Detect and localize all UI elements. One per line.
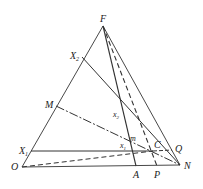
label-O: O bbox=[11, 161, 18, 172]
label-X2: X2 bbox=[69, 50, 79, 62]
line-F-P bbox=[103, 26, 157, 166]
label-N: N bbox=[183, 160, 192, 171]
label-X1: X1 bbox=[18, 145, 28, 157]
line-X2-N bbox=[82, 57, 180, 165]
line-C-Q bbox=[153, 150, 172, 151]
label-Q: Q bbox=[175, 143, 183, 154]
label-x1: x1 bbox=[119, 141, 126, 151]
edge-FN bbox=[103, 26, 180, 165]
label-x2: x2 bbox=[112, 110, 120, 120]
label-M: M bbox=[44, 99, 54, 110]
edge-OF bbox=[22, 26, 103, 167]
label-A: A bbox=[132, 169, 140, 180]
label-m: m bbox=[130, 134, 136, 143]
ternary-diagram: F X2 M X1 O A P N C Q x2 m x1 bbox=[0, 0, 203, 189]
edge-ON bbox=[22, 165, 180, 167]
label-F: F bbox=[99, 13, 107, 24]
label-P: P bbox=[153, 169, 160, 180]
diagram-svg: F X2 M X1 O A P N C Q x2 m x1 bbox=[0, 0, 203, 189]
label-C: C bbox=[154, 139, 161, 150]
